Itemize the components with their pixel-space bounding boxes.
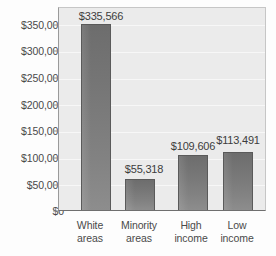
category-label-line: Low (208, 219, 266, 232)
bar-low-income (223, 152, 253, 210)
category-label-line: income (208, 232, 266, 245)
plot-area (58, 7, 266, 211)
category-label-line: areas (110, 232, 168, 245)
category-label-low-income: Low income (208, 219, 266, 244)
value-label-low-income: $113,491 (203, 134, 273, 146)
bar-high-income (178, 155, 208, 210)
bar-highlight (82, 25, 91, 210)
value-label-minority-areas: $55,318 (112, 163, 176, 175)
bar-highlight (126, 180, 135, 210)
bar-highlight (224, 153, 233, 210)
category-label-minority-areas: Minority areas (110, 219, 168, 244)
category-label-line: Minority (110, 219, 168, 232)
bar-chart: $350,000 $300,000 $250,000 $200,000 $150… (0, 0, 276, 256)
bar-highlight (179, 156, 188, 210)
bar-white-areas (81, 24, 111, 210)
value-label-white-areas: $335,566 (68, 10, 134, 22)
bar-minority-areas (125, 179, 155, 210)
